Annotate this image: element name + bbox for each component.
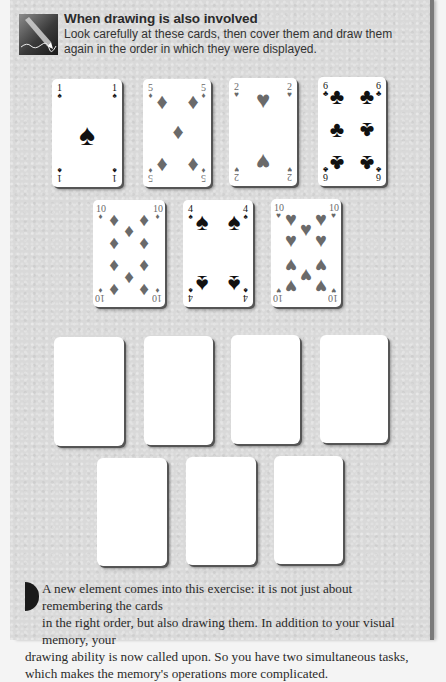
card-six-of-clubs: 6♣ 6♣ 6♣ 6♣ ♣ ♣ ♣ ♣ ♣ ♣ [318, 77, 386, 186]
spade-icon: ♠ [228, 210, 241, 234]
heart-icon: ♥ [315, 277, 327, 297]
heart-icon: ♥ [315, 209, 327, 229]
diamond-icon: ♦ [156, 153, 167, 175]
diamond-icon: ♦ [139, 210, 149, 229]
drawing-slot-6[interactable] [186, 457, 256, 565]
spade-icon: ♠ [228, 272, 241, 296]
heart-icon: ♥ [285, 230, 297, 250]
diamond-icon: ♦ [124, 267, 134, 286]
exercise-explanation: A new element comes into this exercise: … [25, 580, 420, 682]
diamond-icon: ♦ [139, 255, 149, 274]
diamond-icon: ♦ [139, 279, 149, 298]
card-ten-of-diamonds: 10♦ 10♦ 10♦ 10♦ ♦ ♦ ♦ ♦ ♦ ♦ ♦ ♦ ♦ ♦ [93, 200, 165, 307]
heart-icon: ♥ [285, 277, 297, 297]
drawing-slot-3[interactable] [231, 335, 300, 444]
diamond-icon: ♦ [187, 153, 198, 175]
heart-icon: ♥ [315, 230, 327, 250]
club-icon: ♣ [360, 119, 374, 141]
diamond-icon: ♦ [124, 221, 134, 240]
club-icon: ♣ [360, 152, 374, 174]
heart-icon: ♥ [300, 219, 312, 239]
club-icon: ♣ [330, 86, 344, 108]
card-five-of-diamonds: 5♦ 5♦ 5♦ 5♦ ♦ ♦ ♦ ♦ ♦ [143, 79, 211, 187]
card-ace-of-spades: 1♠ 1♠ 1♠ 1♠ ♠ [52, 79, 122, 187]
heart-icon: ♥ [285, 256, 297, 276]
diamond-icon: ♦ [172, 121, 183, 143]
heart-icon: ♥ [300, 266, 312, 286]
spade-icon: ♠ [79, 120, 95, 150]
diamond-icon: ♦ [156, 91, 167, 113]
drawing-slot-4[interactable] [320, 335, 388, 443]
spade-icon: ♠ [196, 210, 209, 234]
heart-icon: ♥ [285, 209, 297, 229]
diamond-icon: ♦ [109, 255, 119, 274]
card-four-of-spades: 4♠ 4♠ 4♠ 4♠ ♠ ♠ ♠ ♠ [183, 200, 253, 307]
drawing-slot-1[interactable] [54, 337, 124, 446]
drawing-slot-5[interactable] [97, 458, 167, 566]
card-ten-of-hearts: 10♥ 10♥ 10♥ 10♥ ♥ ♥ ♥ ♥ ♥ ♥ ♥ ♥ ♥ ♥ [271, 199, 341, 307]
diamond-icon: ♦ [109, 233, 119, 252]
heart-icon: ♥ [256, 150, 270, 174]
pencil-drawing-icon [19, 14, 58, 55]
diamond-icon: ♦ [109, 279, 119, 298]
exercise-title: When drawing is also involved [64, 11, 258, 26]
heart-icon: ♥ [256, 88, 270, 112]
club-icon: ♣ [330, 152, 344, 174]
diamond-icon: ♦ [109, 210, 119, 229]
exercise-instructions: Look carefully at these cards, then cove… [64, 27, 419, 57]
spade-icon: ♠ [196, 272, 209, 296]
card-two-of-hearts: 2♥ 2♥ 2♥ 2♥ ♥ ♥ [229, 78, 297, 186]
diamond-icon: ♦ [139, 233, 149, 252]
drawing-slot-2[interactable] [144, 336, 213, 445]
drawing-slot-7[interactable] [274, 456, 343, 564]
club-icon: ♣ [330, 119, 344, 141]
diamond-icon: ♦ [187, 91, 198, 113]
heart-icon: ♥ [315, 256, 327, 276]
club-icon: ♣ [360, 86, 374, 108]
